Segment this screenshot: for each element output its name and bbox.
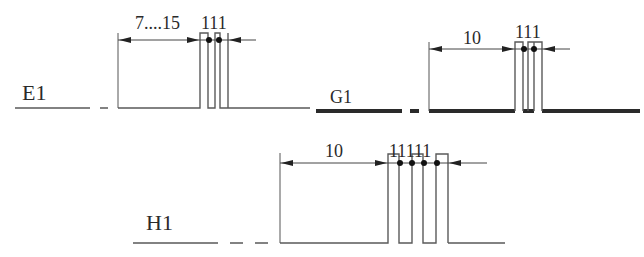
dimension-label-g1-lead: 10: [463, 28, 481, 48]
dot-marker: [521, 46, 527, 52]
dot-marker: [216, 37, 222, 43]
signal-e1: E1 7....15 111: [15, 13, 310, 108]
arrow-icon: [281, 160, 293, 166]
timing-diagram: E1 7....15 111 G1 10 111 H1: [0, 0, 644, 257]
arrow-icon: [119, 37, 131, 43]
arrow-icon: [187, 37, 199, 43]
signal-label-g1: G1: [330, 87, 352, 107]
arrow-icon: [449, 160, 461, 166]
waveform-e1: [15, 33, 310, 108]
dot-marker: [434, 160, 440, 166]
dot-marker: [206, 37, 212, 43]
arrow-icon: [229, 37, 241, 43]
arrow-icon: [543, 46, 555, 52]
dimension-label-g1-pulses: 111: [515, 22, 541, 42]
dimension-label-e1-pulses: 111: [201, 13, 227, 33]
waveform-g1-pulses: [515, 42, 542, 111]
waveform-h1: [133, 154, 505, 243]
signal-h1: H1 10 11111: [133, 141, 505, 243]
dimension-label-e1-lead: 7....15: [135, 13, 180, 33]
arrow-icon: [502, 46, 514, 52]
dimension-label-h1-pulses: 11111: [389, 141, 431, 161]
dimension-label-h1-lead: 10: [325, 141, 343, 161]
signal-g1: G1 10 111: [316, 22, 640, 111]
signal-label-h1: H1: [146, 210, 173, 235]
arrow-icon: [375, 160, 387, 166]
dot-marker: [531, 46, 537, 52]
arrow-icon: [430, 46, 442, 52]
signal-label-e1: E1: [22, 80, 46, 105]
